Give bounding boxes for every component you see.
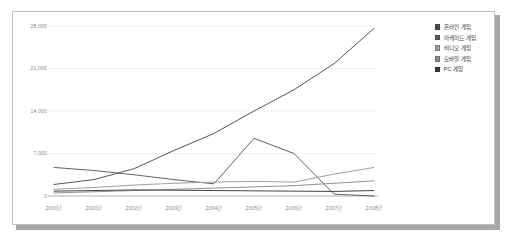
series-lines (54, 28, 374, 196)
legend-item-label: 아케이드 게임 (444, 34, 476, 42)
x-tick-label: 2003년 (157, 204, 191, 211)
x-tick-label: 2005년 (237, 204, 271, 211)
legend-item-label: 비디오 게임 (444, 44, 471, 52)
legend-item-label: 온라인 게임 (444, 23, 471, 31)
legend-item-label: PC 게임 (444, 65, 464, 73)
x-tick-label: 2000년 (37, 204, 71, 211)
legend-swatch-icon (435, 45, 441, 51)
x-tick-label: 2001년 (77, 204, 111, 211)
y-tick-label: 14,000 (13, 108, 47, 114)
y-tick-label: 7,000 (13, 150, 47, 156)
legend-swatch-icon (435, 67, 441, 73)
x-tick-label: 2002년 (117, 204, 151, 211)
legend-swatch-icon (435, 35, 441, 41)
x-tick-label: 2006년 (277, 204, 311, 211)
x-tick-label: 2008년 (357, 204, 391, 211)
chart-svg (13, 12, 496, 226)
legend-swatch-icon (435, 56, 441, 62)
legend-item[interactable]: 온라인 게임 (435, 23, 476, 31)
chart-legend: 온라인 게임아케이드 게임비디오 게임모바일 게임PC 게임 (435, 23, 476, 73)
x-tick-label: 2004년 (197, 204, 231, 211)
y-tick-label: 28,000 (13, 23, 47, 29)
y-tick-label: 21,000 (13, 65, 47, 71)
chart-card: 28,00021,00014,0007,0000 2000년2001년2002년… (12, 11, 495, 225)
x-tick-label: 2007년 (317, 204, 351, 211)
legend-item[interactable]: 비디오 게임 (435, 44, 476, 52)
y-tick-label: 0 (13, 193, 47, 199)
legend-item[interactable]: 아케이드 게임 (435, 34, 476, 42)
legend-swatch-icon (435, 24, 441, 30)
plot-area: 28,00021,00014,0007,0000 2000년2001년2002년… (13, 12, 494, 224)
screenshot-root: 28,00021,00014,0007,0000 2000년2001년2002년… (0, 0, 508, 237)
legend-item[interactable]: 모바일 게임 (435, 55, 476, 63)
legend-item[interactable]: PC 게임 (435, 65, 476, 73)
series-line-0 (54, 28, 374, 184)
legend-item-label: 모바일 게임 (444, 55, 471, 63)
